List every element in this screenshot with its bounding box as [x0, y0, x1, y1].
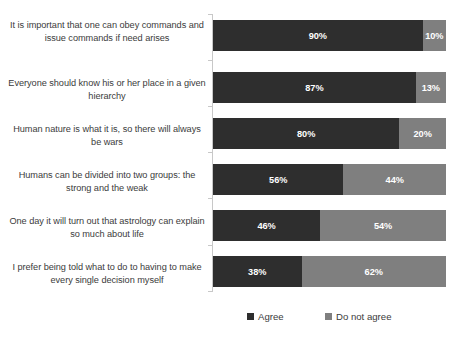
bar-segment-agree[interactable]: 87% — [213, 72, 416, 103]
bar-value-label: 90% — [309, 31, 327, 41]
stacked-bar-chart: It is important that one can obey comman… — [0, 0, 456, 346]
category-label: I prefer being told what to do to having… — [8, 261, 206, 286]
bar-segment-disagree[interactable]: 62% — [302, 256, 446, 287]
bar-value-label: 44% — [386, 175, 404, 185]
bar-value-label: 56% — [269, 175, 287, 185]
bar-segment-disagree[interactable]: 13% — [416, 72, 446, 103]
category-axis-line — [212, 14, 213, 292]
legend-label: Do not agree — [336, 311, 391, 322]
axis-tick — [208, 106, 212, 107]
category-label: It is important that one can obey comman… — [8, 19, 206, 44]
bar-segment-agree[interactable]: 80% — [213, 118, 399, 149]
bar-segment-agree[interactable]: 90% — [213, 20, 423, 51]
bar-value-label: 46% — [257, 221, 275, 231]
bar-segment-disagree[interactable]: 54% — [320, 210, 446, 241]
legend-swatch-icon — [325, 313, 332, 320]
category-label: Everyone should know his or her place in… — [8, 77, 206, 102]
legend-item-agree[interactable]: Agree — [247, 311, 284, 322]
bar-row[interactable]: 38% 62% — [213, 256, 446, 287]
axis-tick — [208, 60, 212, 61]
bar-segment-agree[interactable]: 38% — [213, 256, 302, 287]
bar-value-label: 13% — [422, 83, 440, 93]
category-label: Human nature is what it is, so there wil… — [8, 123, 206, 148]
bar-segment-disagree[interactable]: 10% — [423, 20, 446, 51]
bar-row[interactable]: 46% 54% — [213, 210, 446, 241]
bar-value-label: 20% — [413, 129, 431, 139]
category-label: One day it will turn out that astrology … — [8, 215, 206, 240]
bar-segment-disagree[interactable]: 44% — [343, 164, 446, 195]
chart-legend: Agree Do not agree — [0, 311, 456, 327]
legend-label: Agree — [258, 311, 284, 322]
bar-segment-disagree[interactable]: 20% — [399, 118, 446, 149]
bar-row[interactable]: 56% 44% — [213, 164, 446, 195]
bar-value-label: 80% — [297, 129, 315, 139]
axis-tick — [208, 291, 212, 292]
bar-value-label: 54% — [374, 221, 392, 231]
legend-item-do-not-agree[interactable]: Do not agree — [325, 311, 391, 322]
axis-tick — [208, 152, 212, 153]
bar-value-label: 87% — [305, 83, 323, 93]
bar-row[interactable]: 90% 10% — [213, 20, 446, 51]
bar-value-label: 62% — [365, 267, 383, 277]
bar-segment-agree[interactable]: 46% — [213, 210, 320, 241]
bar-value-label: 38% — [248, 267, 266, 277]
bar-row[interactable]: 87% 13% — [213, 72, 446, 103]
legend-swatch-icon — [247, 313, 254, 320]
bar-row[interactable]: 80% 20% — [213, 118, 446, 149]
category-label: Humans can be divided into two groups: t… — [8, 169, 206, 194]
bar-segment-agree[interactable]: 56% — [213, 164, 343, 195]
axis-tick — [208, 245, 212, 246]
bar-value-label: 10% — [425, 31, 443, 41]
axis-tick — [208, 14, 212, 15]
axis-tick — [208, 198, 212, 199]
